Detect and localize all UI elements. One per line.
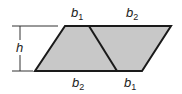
bottom-left-base-label: b2 xyxy=(72,75,84,92)
top-right-base-label: b2 xyxy=(126,5,138,22)
height-label: h xyxy=(16,40,23,55)
parallelogram-diagram: h b1 b2 b2 b1 xyxy=(0,0,182,94)
bottom-right-base-label: b1 xyxy=(124,75,136,92)
top-left-base-label: b1 xyxy=(71,5,83,22)
